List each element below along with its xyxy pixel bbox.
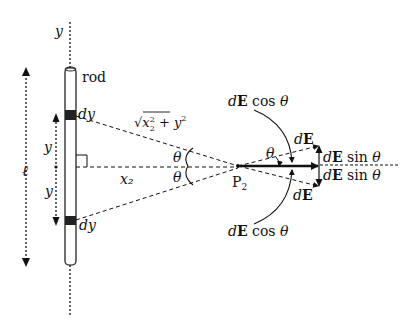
charge-element-top bbox=[65, 110, 76, 120]
center-dot bbox=[54, 165, 57, 168]
length-arrow-head-down bbox=[22, 258, 30, 267]
dE-bottom-label: dE bbox=[293, 187, 313, 203]
dy-top-label: dy bbox=[78, 106, 96, 122]
point-p2-label: P2 bbox=[232, 174, 247, 192]
theta-lower-label: θ bbox=[173, 169, 182, 185]
y-lower-label: y bbox=[44, 183, 54, 199]
theta-at-point-label: θ bbox=[266, 145, 275, 161]
theta-upper-label: θ bbox=[173, 149, 182, 165]
rod bbox=[65, 67, 76, 265]
dE-sin-bottom-label: dE sin θ bbox=[323, 167, 381, 183]
rod-field-diagram: y rod dy dy ℓ y y x₂ √x22 + y2 θ θ P2 dE… bbox=[0, 0, 404, 333]
dE-top-label: dE bbox=[294, 131, 314, 147]
length-arrow-head-up bbox=[22, 67, 30, 76]
y-arrow-head-up bbox=[53, 113, 60, 122]
y-axis-label: y bbox=[54, 23, 64, 39]
charge-element-bottom bbox=[65, 216, 76, 225]
y-upper-label: y bbox=[43, 139, 53, 155]
sin-arrow-head-up bbox=[316, 145, 323, 153]
dE-cos-top-label: dE cos θ bbox=[228, 93, 289, 109]
hypotenuse-bottom bbox=[76, 168, 238, 220]
theta-arc-p2 bbox=[276, 157, 279, 166]
sin-arrow-head-down bbox=[316, 179, 323, 187]
rod-label: rod bbox=[82, 69, 106, 85]
dE-vector-top bbox=[238, 146, 318, 166]
length-label: ℓ bbox=[22, 162, 28, 180]
dy-bottom-label: dy bbox=[79, 217, 97, 233]
dE-cos-bottom-label: dE cos θ bbox=[228, 223, 289, 239]
dE-sin-top-label: dE sin θ bbox=[323, 149, 381, 165]
y-arrow-head-down bbox=[53, 217, 60, 226]
hypotenuse-label: √x22 + y2 bbox=[134, 114, 186, 133]
dE-vector-bottom bbox=[238, 166, 318, 186]
right-angle-mark bbox=[76, 155, 87, 167]
distance-label: x₂ bbox=[120, 171, 134, 187]
